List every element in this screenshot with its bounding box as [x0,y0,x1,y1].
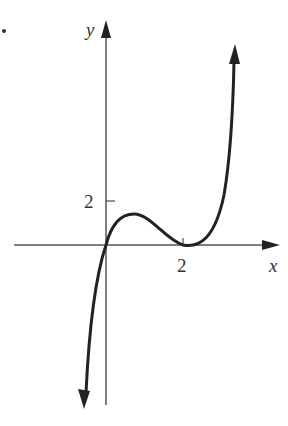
curve-arrow-down-icon [78,389,90,409]
x-axis-label: x [268,255,278,276]
y-tick-label: 2 [84,191,94,212]
y-axis-label: y [84,19,95,40]
graph: y x 2 2 [0,0,288,426]
bullet-dot [2,29,6,33]
x-tick-label: 2 [177,255,187,276]
x-axis-arrow-icon [262,240,280,250]
curve-arrow-up-icon [229,44,240,64]
cubic-curve [86,62,234,393]
y-axis-arrow-icon [101,20,111,38]
